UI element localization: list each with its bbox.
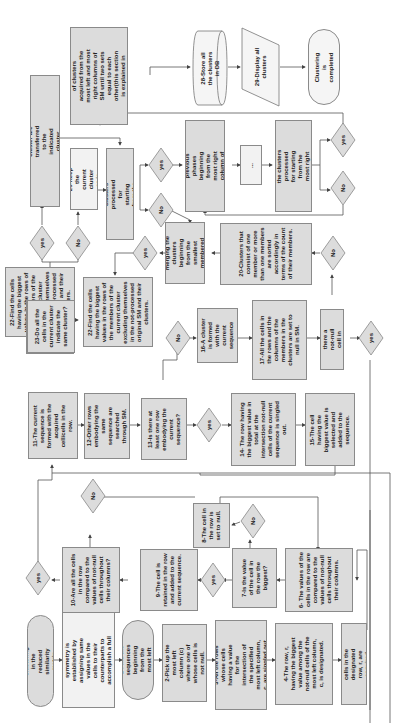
no-label: No <box>340 184 346 192</box>
decision-no-26b: No <box>330 170 356 206</box>
no-label: No <box>250 517 256 525</box>
decision-yes-26b: yes <box>330 122 356 158</box>
step-22b-text: 22-Find the cells having the biggest val… <box>87 279 150 345</box>
step-14: 14- The row having the biggest value in … <box>231 393 296 466</box>
end-text: Clustering is completed <box>314 52 335 82</box>
no-label: No <box>75 239 81 247</box>
step-26b: 26-Are all the clusters processed for st… <box>275 120 312 212</box>
step-6-text: 6- The values of the cells in the row ar… <box>298 550 340 610</box>
step-25: 25-Keep the current cluster as is. <box>70 148 98 210</box>
step-29-text: 29-Display all clusters <box>254 48 268 87</box>
yes-label: yes <box>142 248 148 258</box>
step-27-text: 27-Forge two sets of clusters acquired f… <box>70 48 128 104</box>
step-13: 13-Is there at least one row embodying t… <box>141 398 187 460</box>
yes-label: yes <box>340 135 346 145</box>
step-22b: 22-Find the cells having the biggest val… <box>83 277 153 347</box>
decision-no-23: No <box>65 225 91 261</box>
step-15: 15-The cell having the biggest value is … <box>305 393 355 466</box>
step-28-db: 28-Store all the clusters in DB <box>192 30 228 106</box>
decision-no-26a: No <box>148 192 174 228</box>
step-15-text: 15-The cell having the biggest value is … <box>309 406 351 454</box>
step-3: 3-All the rows whose cells having a valu… <box>215 620 267 710</box>
yes-label: yes <box>158 160 164 170</box>
step-16-text: 16-A cluster is formed with the current … <box>200 316 235 355</box>
step-14-text: 14- The row having the biggest value in … <box>239 398 288 461</box>
step-29-display: 29-Display all clusters <box>241 27 280 107</box>
yes-label: yes <box>35 573 41 583</box>
step-11-text: 11-The current sequence is formed with t… <box>32 402 74 450</box>
step-27: 27-Forge two sets of clusters acquired f… <box>70 27 128 125</box>
end-terminal: Clustering is completed <box>308 29 340 105</box>
decision-yes-10: yes <box>25 560 51 596</box>
yes-label: yes <box>39 238 45 248</box>
start-terminal: Begin clustering in the reduced similari… <box>27 615 54 707</box>
yes-label: yes <box>210 575 216 585</box>
step-1: 1-Find the sequences beginning from the … <box>122 620 154 700</box>
decision-yes-23: yes <box>29 225 55 261</box>
step-23-box: 23-Do all the cells in the current clust… <box>27 300 75 353</box>
step-8: 8-The cell in the row is set to null. <box>193 503 230 548</box>
step-13-text: 13-Is there at least one row embodying t… <box>147 407 182 451</box>
step-7: 7-Is the value of the cell in the row th… <box>232 548 277 608</box>
step-10-text: 10-Are all the cells in the row compared… <box>70 552 112 608</box>
step-5-text: 5-Not-null cells in the designated row, … <box>341 648 367 680</box>
step-24-text: 24-The members in the current cluster ar… <box>30 125 60 157</box>
step-1b: 1-Do all the previous phases beginning f… <box>185 120 225 212</box>
decision-no-18: No <box>320 235 346 271</box>
no-label: No <box>90 492 96 500</box>
ellipsis-step: ... <box>240 145 262 185</box>
step-17: 17-All the cells in the rows and the col… <box>252 300 307 380</box>
no-label: No <box>158 206 164 214</box>
decision-yes-26a: yes <box>148 147 174 183</box>
step-26a: 26-Are all the clusters processed for st… <box>106 148 134 240</box>
step-20: 20-Clusters that consist of one member o… <box>220 223 312 285</box>
step-9-text: 9-The cell is retained in the row and ad… <box>155 552 183 608</box>
yes-label: yes <box>206 420 212 430</box>
flowchart-canvas: Begin clustering in the reduced similari… <box>0 0 401 723</box>
step-8-text: 8-The cell in the row is set to null. <box>201 508 222 543</box>
step-26b-text: 26-Are all the clusters processed for st… <box>275 149 312 184</box>
step-25-text: 25-Keep the current cluster as is. <box>70 166 98 192</box>
step-10: 10-Are all the cells in the row compared… <box>62 547 120 613</box>
no-label: No <box>175 334 181 342</box>
step-1b-text: 1-Do all the previous phases beginning f… <box>185 147 225 185</box>
step-21: 21-Start merging the clusters beginning … <box>165 222 205 284</box>
step-5: 5-Not-null cells in the designated row, … <box>341 623 367 705</box>
symmetry-text: A complete symmetry is established by as… <box>62 635 115 686</box>
decision-no-7: No <box>240 503 266 539</box>
step-3-text: 3-All the rows whose cells having a valu… <box>215 640 267 690</box>
decision-yes-7: yes <box>200 562 226 598</box>
step-26a-text: 26-Are all the clusters processed for st… <box>106 179 134 209</box>
no-label: No <box>330 249 336 257</box>
start-text: Begin clustering in the reduced similari… <box>27 647 54 676</box>
step-17-text: 17-All the cells in the rows and the col… <box>259 314 301 367</box>
ellipsis-text: ... <box>248 155 255 175</box>
step-6: 6- The values of the cells in the row ar… <box>285 548 353 612</box>
step-4-text: 4-The row, r, having the biggest value a… <box>283 636 325 692</box>
step-16: 16-A cluster is formed with the current … <box>197 308 238 363</box>
step-12: 12-Other rows embodying the same sequenc… <box>84 393 130 459</box>
decision-yes-18: yes <box>358 320 384 356</box>
yes-label: yes <box>368 333 374 343</box>
step-18-text: 18-Is there a not-null cell in SM? <box>320 329 344 351</box>
step-28-text: 28-Store all the clusters in DB <box>200 50 221 86</box>
step-2-text: 2-Pick up the most left column (c) where… <box>164 642 206 685</box>
step-23-text: 23-Do all the cells in the current clust… <box>34 304 69 350</box>
step-24: 24-The members in the current cluster ar… <box>30 75 60 207</box>
step-2: 2-Pick up the most left column (c) where… <box>162 624 207 702</box>
step-20-text: 20-Clusters that consist of one member o… <box>238 225 294 283</box>
symmetry-step: A complete symmetry is established by as… <box>62 612 115 708</box>
step-1-text: 1-Find the sequences beginning from the … <box>122 644 154 675</box>
step-11: 11-The current sequence is formed with t… <box>28 392 78 459</box>
step-21-text: 21-Start merging the clusters beginning … <box>165 234 205 272</box>
decision-no-10: No <box>80 478 106 514</box>
step-9: 9-The cell is retained in the row and ad… <box>140 549 198 611</box>
decision-yes-13: yes <box>196 407 222 443</box>
step-4: 4-The row, r, having the biggest value a… <box>275 623 333 705</box>
decision-yes-21: yes <box>132 235 158 271</box>
step-18: 18-Is there a not-null cell in SM? <box>320 309 344 370</box>
step-7-text: 7-Is the value of the cell in the row th… <box>241 557 269 600</box>
decision-no-13: No <box>165 320 191 356</box>
step-12-text: 12-Other rows embodying the same sequenc… <box>86 404 128 448</box>
